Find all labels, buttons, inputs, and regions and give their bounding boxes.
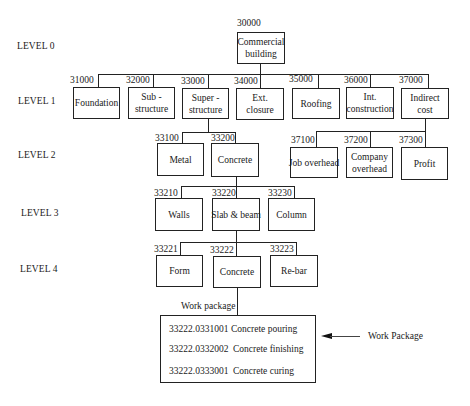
node-code: 33222 — [210, 245, 234, 255]
work-package-code: 33222.0332002 — [169, 344, 228, 354]
connector — [235, 132, 236, 143]
level-0-label: LEVEL 0 — [17, 41, 55, 51]
connector — [316, 131, 426, 132]
connector — [182, 132, 183, 143]
node-ext-closure: Ext. closure — [236, 88, 284, 120]
connector — [180, 242, 181, 255]
node-code: 31000 — [70, 75, 94, 85]
node-code: 33100 — [155, 133, 179, 143]
connector — [181, 186, 295, 187]
connector — [208, 74, 209, 88]
connector — [236, 177, 237, 186]
connector — [296, 242, 297, 255]
node-code: 37100 — [291, 135, 315, 145]
node-code: 37300 — [399, 135, 423, 145]
node-column: Column — [268, 198, 315, 231]
connector — [316, 131, 317, 147]
work-package-annotation: Work Package — [368, 331, 423, 341]
node-metal: Metal — [157, 143, 204, 176]
node-code: 33210 — [154, 188, 178, 198]
work-package-box: 33222.0331001 Concrete pouring 33222.033… — [160, 315, 316, 383]
node-code: 33221 — [154, 244, 178, 254]
connector — [318, 74, 319, 88]
node-walls: Walls — [155, 198, 203, 231]
connector — [294, 186, 295, 198]
connector — [425, 131, 426, 147]
level-3-label: LEVEL 3 — [21, 208, 59, 218]
connector — [208, 119, 209, 132]
connector — [370, 74, 371, 87]
work-package-caption: Work package — [181, 301, 235, 311]
connector — [236, 242, 237, 256]
node-sub-structure: Sub - structure — [128, 87, 175, 119]
connector — [425, 119, 426, 131]
connector — [153, 74, 154, 87]
level-2-label: LEVEL 2 — [18, 150, 56, 160]
node-slab-beam: Slab & beam — [212, 198, 260, 231]
connector — [236, 186, 237, 198]
node-code: 33220 — [212, 188, 236, 198]
node-code: 37000 — [399, 75, 423, 85]
connector — [370, 131, 371, 147]
node-super-structure: Super - structure — [182, 88, 229, 119]
connector — [260, 64, 261, 74]
connector — [236, 231, 237, 242]
work-package-name: Concrete finishing — [233, 344, 303, 354]
work-package-name: Concrete curing — [233, 366, 294, 376]
node-code: 33223 — [270, 244, 294, 254]
wbs-diagram: LEVEL 0 LEVEL 1 LEVEL 2 LEVEL 3 LEVEL 4 … — [0, 0, 470, 406]
node-form: Form — [156, 255, 203, 287]
connector — [237, 288, 238, 315]
work-package-name: Concrete pouring — [231, 324, 297, 334]
work-package-code: 33222.0333001 — [169, 366, 228, 376]
node-code: 36000 — [344, 75, 368, 85]
node-profit: Profit — [401, 147, 448, 180]
node-foundation: Foundation — [73, 87, 120, 119]
connector — [260, 74, 261, 88]
node-code: 33200 — [211, 133, 235, 143]
node-concrete-l4: Concrete — [213, 256, 261, 288]
node-re-bar: Re-bar — [270, 255, 318, 287]
node-code: 37200 — [344, 135, 368, 145]
level-1-label: LEVEL 1 — [18, 96, 56, 106]
node-company-overhead: Company overhead — [346, 147, 393, 178]
node-int-construction: Int. construction — [346, 87, 394, 119]
arrow-shaft — [330, 336, 360, 337]
connector — [180, 242, 297, 243]
node-concrete-l2: Concrete — [211, 143, 259, 177]
connector — [181, 186, 182, 198]
node-code: 34000 — [234, 76, 258, 86]
node-indirect-cost: Indirect cost — [401, 88, 449, 119]
node-commercial-building: Commercial building — [237, 32, 285, 64]
node-job-overhead: Job overhead — [290, 147, 338, 178]
node-code: 33000 — [181, 76, 205, 86]
work-package-code: 33222.0331001 — [169, 324, 228, 334]
node-roofing: Roofing — [292, 88, 340, 119]
node-code: 32000 — [126, 75, 150, 85]
node-code: 35000 — [289, 74, 313, 84]
connector — [98, 74, 99, 87]
level-4-label: LEVEL 4 — [20, 264, 58, 274]
connector — [428, 74, 429, 88]
node-code: 30000 — [237, 18, 261, 28]
node-code: 33230 — [268, 188, 292, 198]
